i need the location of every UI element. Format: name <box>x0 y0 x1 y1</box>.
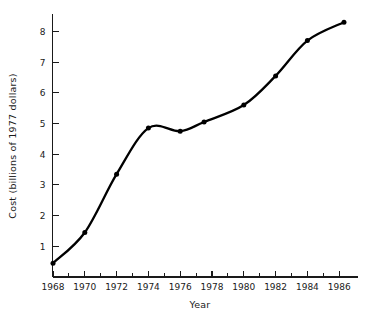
x-tick-label: 1984 <box>296 282 319 292</box>
y-tick-label: 2 <box>40 211 46 221</box>
chart-background <box>0 0 370 318</box>
y-tick-label: 5 <box>40 119 46 129</box>
y-tick-label: 1 <box>40 242 46 252</box>
x-tick-label: 1978 <box>201 282 224 292</box>
data-point <box>305 38 310 43</box>
data-point <box>341 20 346 25</box>
x-tick-label: 1972 <box>105 282 128 292</box>
data-point <box>146 126 151 131</box>
data-point <box>273 73 278 78</box>
data-point <box>241 103 246 108</box>
x-tick-label: 1980 <box>232 282 255 292</box>
x-tick-label: 1970 <box>73 282 96 292</box>
y-tick-label: 3 <box>40 180 46 190</box>
y-tick-label: 4 <box>40 150 46 160</box>
line-chart: 12345678 1968197019721974197619781980198… <box>0 0 370 318</box>
y-tick-label: 7 <box>40 58 46 68</box>
data-point <box>51 261 56 266</box>
x-tick-label: 1976 <box>169 282 192 292</box>
y-tick-label: 8 <box>40 27 46 37</box>
data-point <box>178 129 183 134</box>
x-axis-title: Year <box>189 299 211 310</box>
x-tick-label: 1986 <box>328 282 351 292</box>
data-point <box>82 230 87 235</box>
y-axis-title: Cost (billions of 1977 dollars) <box>7 73 18 218</box>
x-tick-label: 1974 <box>137 282 160 292</box>
x-tick-label: 1982 <box>264 282 287 292</box>
data-point <box>202 119 207 124</box>
x-tick-label: 1968 <box>42 282 65 292</box>
y-tick-label: 6 <box>40 88 46 98</box>
data-point <box>114 172 119 177</box>
